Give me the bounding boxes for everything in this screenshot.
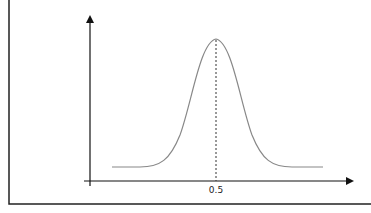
bell-curve [112,39,323,167]
x-tick-label: 0.5 [209,185,223,195]
bell-curve-diagram: 0.5 [0,0,371,213]
